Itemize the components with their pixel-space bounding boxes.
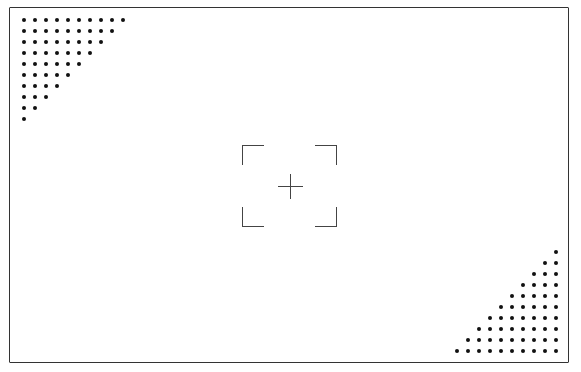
dot <box>466 349 470 353</box>
dot <box>554 261 558 265</box>
dot <box>532 294 536 298</box>
dot <box>510 338 514 342</box>
dot <box>499 305 503 309</box>
dot <box>521 305 525 309</box>
dot <box>521 316 525 320</box>
dot <box>466 338 470 342</box>
dot <box>499 327 503 331</box>
dot <box>532 349 536 353</box>
crosshair-icon-vertical <box>290 174 291 199</box>
dot <box>543 294 547 298</box>
dot <box>554 349 558 353</box>
dot <box>532 283 536 287</box>
dot <box>488 327 492 331</box>
dot <box>510 316 514 320</box>
dot <box>477 349 481 353</box>
dot <box>543 261 547 265</box>
dot <box>554 250 558 254</box>
dot <box>477 327 481 331</box>
dot <box>488 349 492 353</box>
dot <box>543 349 547 353</box>
focus-bracket-top-left <box>242 145 264 165</box>
dot <box>554 316 558 320</box>
dot <box>510 327 514 331</box>
dot <box>554 305 558 309</box>
dot <box>554 338 558 342</box>
dot <box>521 338 525 342</box>
dot <box>532 272 536 276</box>
dot <box>543 272 547 276</box>
dot <box>554 327 558 331</box>
dot <box>543 327 547 331</box>
dot <box>532 338 536 342</box>
dot <box>543 305 547 309</box>
dot <box>521 349 525 353</box>
dot <box>510 305 514 309</box>
dot <box>532 327 536 331</box>
dot <box>543 283 547 287</box>
focus-bracket-bottom-right <box>315 207 337 227</box>
dot <box>499 349 503 353</box>
dot <box>532 305 536 309</box>
dot <box>455 349 459 353</box>
dot <box>554 283 558 287</box>
dot <box>543 338 547 342</box>
dot <box>554 294 558 298</box>
dot <box>477 338 481 342</box>
dot <box>532 316 536 320</box>
dot <box>510 349 514 353</box>
dot <box>488 338 492 342</box>
dot <box>499 338 503 342</box>
dot <box>554 272 558 276</box>
dot <box>521 283 525 287</box>
dot <box>499 316 503 320</box>
focus-bracket-top-right <box>315 145 337 165</box>
dot <box>521 294 525 298</box>
dot <box>488 316 492 320</box>
dot <box>543 316 547 320</box>
dot <box>521 327 525 331</box>
focus-bracket-bottom-left <box>242 207 264 227</box>
dot <box>510 294 514 298</box>
